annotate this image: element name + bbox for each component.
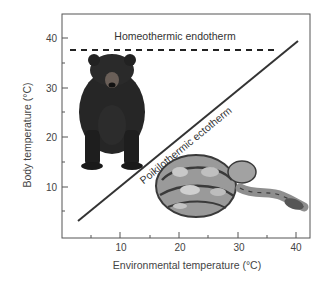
x-tick-30: 30: [233, 242, 245, 253]
y-tick-20: 20: [46, 132, 58, 143]
x-tick-10: 10: [115, 242, 127, 253]
y-axis-label: Body temperature (°C): [21, 82, 33, 187]
x-ticks: [91, 232, 296, 238]
y-tick-30: 30: [46, 83, 58, 94]
chart: 40 30 20 10 10 20 30 40 Environmental te…: [0, 0, 328, 286]
ball-python-icon: [156, 155, 305, 217]
x-tick-40: 40: [290, 242, 302, 253]
y-ticks: [62, 38, 68, 211]
y-tick-10: 10: [46, 182, 58, 193]
x-axis-label: Environmental temperature (°C): [113, 259, 261, 271]
x-tick-20: 20: [174, 242, 186, 253]
endotherm-label: Homeothermic endotherm: [114, 30, 236, 42]
y-tick-40: 40: [46, 33, 58, 44]
black-bear-icon: [79, 54, 145, 170]
